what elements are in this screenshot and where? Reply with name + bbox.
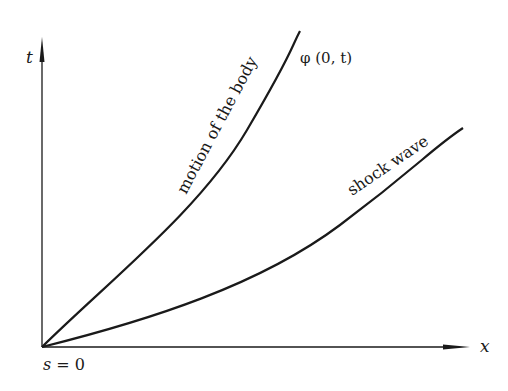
body-motion-curve — [42, 31, 300, 347]
t-axis — [40, 37, 45, 347]
origin-label: s = 0 — [43, 355, 85, 374]
t-axis-label: t — [26, 47, 33, 67]
phi-label: φ (0, t) — [300, 49, 352, 67]
diagram-canvas: t x s = 0 motion of the body φ (0, t) sh… — [0, 0, 508, 391]
x-axis-label: x — [480, 336, 490, 356]
x-axis-arrow-icon — [443, 345, 470, 350]
body-motion-label: motion of the body — [173, 53, 261, 197]
x-axis — [42, 345, 470, 350]
t-axis-arrow-icon — [40, 37, 45, 62]
